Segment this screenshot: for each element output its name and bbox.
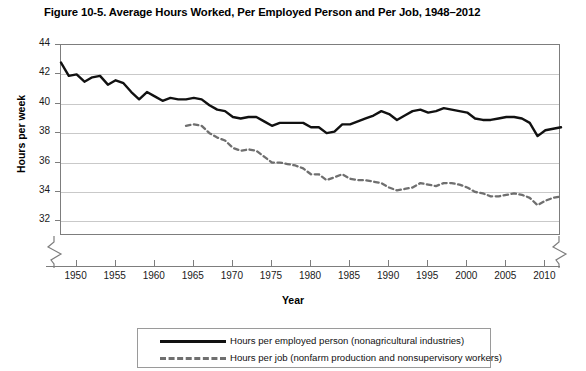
y-tick-label: 32 <box>16 213 50 224</box>
x-tick-label: 1955 <box>93 270 137 281</box>
x-tick-label: 1990 <box>366 270 410 281</box>
x-tick-mark <box>271 260 272 266</box>
legend-item-employed-person: Hours per employed person (nonagricultur… <box>138 333 490 349</box>
legend: Hours per employed person (nonagricultur… <box>137 328 491 368</box>
y-tick-label: 44 <box>16 37 50 48</box>
x-tick-label: 1965 <box>171 270 215 281</box>
y-axis-break-icon <box>46 236 68 268</box>
legend-key-solid-line <box>160 340 226 343</box>
x-tick-mark <box>76 260 77 266</box>
x-tick-mark <box>310 260 311 266</box>
x-axis-label: Year <box>0 294 586 306</box>
y-tick-label: 38 <box>16 125 50 136</box>
series-svg <box>61 45 561 236</box>
x-tick-mark <box>427 260 428 266</box>
x-tick-mark <box>505 260 506 266</box>
y-tick-label: 36 <box>16 155 50 166</box>
y-tick-label: 42 <box>16 66 50 77</box>
x-tick-mark <box>154 260 155 266</box>
x-tick-mark <box>544 260 545 266</box>
x-axis-break-icon-right <box>549 236 571 268</box>
x-tick-mark <box>193 260 194 266</box>
legend-item-per-job: Hours per job (nonfarm production and no… <box>138 350 490 366</box>
x-tick-mark <box>466 260 467 266</box>
legend-label-employed-person: Hours per employed person (nonagricultur… <box>230 333 464 349</box>
legend-key-dashed-line <box>160 357 226 360</box>
series-line-per-job <box>186 124 561 205</box>
x-tick-mark <box>232 260 233 266</box>
y-tick-label: 40 <box>16 96 50 107</box>
x-tick-mark <box>115 260 116 266</box>
x-tick-mark <box>349 260 350 266</box>
x-tick-label: 1950 <box>54 270 98 281</box>
x-tick-label: 2000 <box>444 270 488 281</box>
x-tick-label: 1975 <box>249 270 293 281</box>
x-tick-label: 2010 <box>522 270 566 281</box>
figure-container: Figure 10-5. Average Hours Worked, Per E… <box>0 0 586 371</box>
x-axis-line <box>46 266 560 267</box>
series-line-employed-person <box>61 63 561 136</box>
x-tick-label: 1995 <box>405 270 449 281</box>
series-layer <box>61 45 559 234</box>
x-tick-label: 1960 <box>132 270 176 281</box>
x-tick-label: 1980 <box>288 270 332 281</box>
x-tick-mark <box>388 260 389 266</box>
y-tick-label: 34 <box>16 184 50 195</box>
legend-label-per-job: Hours per job (nonfarm production and no… <box>230 350 502 366</box>
x-tick-label: 2005 <box>483 270 527 281</box>
x-tick-label: 1970 <box>210 270 254 281</box>
plot-area <box>60 44 560 235</box>
figure-title: Figure 10-5. Average Hours Worked, Per E… <box>44 6 564 18</box>
x-tick-label: 1985 <box>327 270 371 281</box>
